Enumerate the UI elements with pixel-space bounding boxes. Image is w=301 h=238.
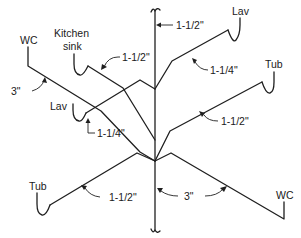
size-wc-left: 3" — [11, 85, 21, 97]
size-tub-right: 1-1/2" — [221, 115, 249, 127]
size-wc-right: 3" — [184, 190, 194, 202]
branch-wc-right — [155, 153, 284, 219]
size-lav-left: 1-1/4" — [97, 127, 125, 139]
size-kitchen-sink: 1-1/2" — [122, 51, 150, 63]
main-stack — [151, 9, 160, 233]
label-kitchen-sink-2: sink — [63, 40, 82, 52]
label-tub-left: Tub — [29, 180, 47, 192]
size-tub-left: 1-1/2" — [109, 191, 137, 203]
branch-tub-left — [37, 153, 155, 215]
label-lav-top-right: Lav — [232, 5, 250, 17]
label-wc-right: WC — [276, 189, 294, 201]
branch-lav-left — [73, 80, 155, 121]
label-kitchen-sink-1: Kitchen — [54, 27, 89, 39]
label-tub-right: Tub — [265, 58, 283, 70]
size-lav-top-right: 1-1/4" — [210, 64, 238, 76]
branch-tub-right — [155, 72, 274, 161]
label-wc-left: WC — [20, 34, 38, 46]
branch-wc-left — [28, 47, 155, 161]
plumbing-riser-diagram: WC Kitchen sink Lav Lav Tub Tub WC 1-1/2… — [0, 0, 301, 238]
size-stack: 1-1/2" — [176, 19, 204, 31]
label-lav-left: Lav — [50, 100, 68, 112]
